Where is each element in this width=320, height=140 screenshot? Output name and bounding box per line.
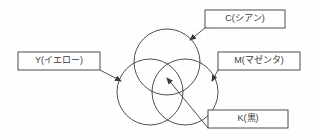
venn-circles: [117, 29, 218, 125]
leader-line-cyan: [190, 28, 205, 40]
circle-cyan: [134, 29, 200, 95]
circle-yellow: [117, 59, 183, 125]
leader-line-yellow: [100, 70, 121, 81]
callout-label-magenta: M(マゼンタ): [218, 56, 300, 65]
callout-label-black: K(黒): [208, 114, 288, 123]
leader-line-black: [167, 78, 208, 128]
cmyk-venn-diagram: 色の三原色と印刷のインキの関係を示した図 C(シアン) Y(イエロー) M(マゼ…: [0, 0, 320, 140]
callout-boxes: [18, 10, 300, 128]
callout-label-yellow: Y(イエロー): [18, 56, 100, 65]
callout-label-cyan: C(シアン): [205, 14, 285, 23]
